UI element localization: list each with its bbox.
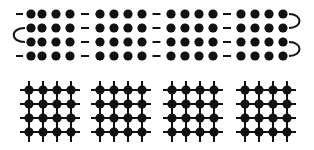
dot <box>109 37 118 46</box>
dot <box>250 37 259 46</box>
bottom-lattice-grids <box>20 81 296 142</box>
dot <box>24 127 33 136</box>
dot <box>109 23 118 32</box>
dot <box>194 23 203 32</box>
dot <box>123 85 132 94</box>
dot <box>240 113 249 122</box>
dot <box>282 85 291 94</box>
dot <box>282 113 291 122</box>
dot <box>65 9 74 18</box>
dot <box>195 127 204 136</box>
dot <box>65 23 74 32</box>
dot <box>109 85 118 94</box>
dot <box>254 113 263 122</box>
dot <box>123 51 132 60</box>
dot-array-diagram <box>0 0 314 150</box>
dot <box>95 37 104 46</box>
dot <box>137 37 146 46</box>
dot <box>268 113 277 122</box>
dot <box>240 99 249 108</box>
dot <box>180 51 189 60</box>
dot <box>38 127 47 136</box>
dot <box>109 9 118 18</box>
dot <box>181 113 190 122</box>
dot <box>236 23 245 32</box>
dot <box>26 37 35 46</box>
dot <box>240 85 249 94</box>
dot <box>254 85 263 94</box>
dot <box>24 99 33 108</box>
dot <box>123 99 132 108</box>
dot <box>137 23 146 32</box>
dot <box>268 85 277 94</box>
dot <box>181 99 190 108</box>
dot <box>166 51 175 60</box>
dot <box>95 127 104 136</box>
dot <box>209 99 218 108</box>
dot <box>95 85 104 94</box>
dot <box>208 9 217 18</box>
dot <box>250 51 259 60</box>
dot <box>95 9 104 18</box>
dot <box>268 127 277 136</box>
dot <box>24 85 33 94</box>
dot <box>254 99 263 108</box>
dot <box>137 51 146 60</box>
dot <box>24 113 33 122</box>
dot <box>264 37 273 46</box>
dot <box>38 113 47 122</box>
dot <box>137 127 146 136</box>
dot <box>236 9 245 18</box>
dot <box>52 127 61 136</box>
dot <box>282 99 291 108</box>
dot <box>180 9 189 18</box>
dot <box>51 9 60 18</box>
dot <box>264 51 273 60</box>
dot <box>66 99 75 108</box>
dot <box>95 99 104 108</box>
dot <box>137 9 146 18</box>
dot <box>95 51 104 60</box>
dot <box>26 23 35 32</box>
dot <box>194 9 203 18</box>
dot <box>123 127 132 136</box>
dot <box>137 85 146 94</box>
dot <box>51 23 60 32</box>
dot <box>38 99 47 108</box>
dot <box>208 51 217 60</box>
dot <box>166 23 175 32</box>
dot <box>208 37 217 46</box>
dot <box>195 85 204 94</box>
dot <box>268 99 277 108</box>
dot <box>95 113 104 122</box>
dot <box>66 127 75 136</box>
dot <box>26 9 35 18</box>
right-connector-arc <box>289 14 300 28</box>
dot <box>250 23 259 32</box>
dot <box>52 113 61 122</box>
dot <box>137 113 146 122</box>
dot <box>240 127 249 136</box>
dot <box>26 51 35 60</box>
dot <box>236 37 245 46</box>
dot <box>51 51 60 60</box>
dot <box>95 23 104 32</box>
dot <box>66 113 75 122</box>
dot <box>137 99 146 108</box>
dot <box>109 127 118 136</box>
dot <box>278 23 287 32</box>
dot <box>52 99 61 108</box>
right-connector-arc <box>289 42 300 56</box>
dot <box>109 113 118 122</box>
dot <box>65 51 74 60</box>
dot <box>37 23 46 32</box>
dot <box>195 113 204 122</box>
dot <box>167 85 176 94</box>
dot <box>180 37 189 46</box>
dot <box>123 37 132 46</box>
dot <box>167 99 176 108</box>
dot <box>123 113 132 122</box>
dot <box>194 51 203 60</box>
dot <box>123 23 132 32</box>
dot <box>194 37 203 46</box>
